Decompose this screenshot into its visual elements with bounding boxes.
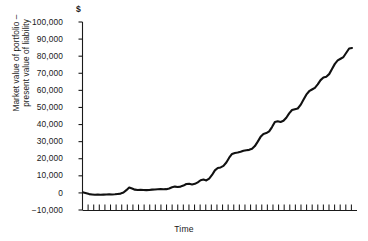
x-axis-label: Time [0,224,368,234]
chart-figure: Market value of portfolio – present valu… [0,0,368,241]
plot-area [0,0,368,241]
data-series-line [84,48,353,195]
axis-lines [83,22,358,211]
x-axis-tick-marks [88,205,351,211]
y-axis-tick-marks [79,22,83,210]
